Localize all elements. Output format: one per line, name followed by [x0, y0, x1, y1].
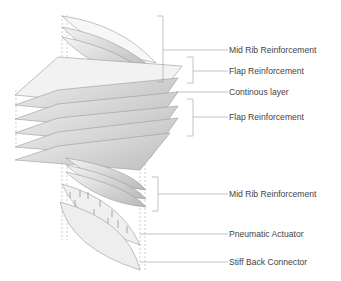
label-pneumatic-actuator: Pneumatic Actuator: [229, 229, 304, 239]
label-mid-rib-bottom: Mid Rib Reinforcement: [229, 189, 316, 199]
label-flap-bottom: Flap Reinforcement: [229, 112, 304, 122]
label-flap-top: Flap Reinforcement: [229, 66, 304, 76]
label-stiff-back-connector: Stiff Back Connector: [229, 257, 307, 267]
label-continuous-layer: Continous layer: [229, 87, 289, 97]
label-mid-rib-top: Mid Rib Reinforcement: [229, 45, 316, 55]
flap-layers: [15, 57, 182, 170]
